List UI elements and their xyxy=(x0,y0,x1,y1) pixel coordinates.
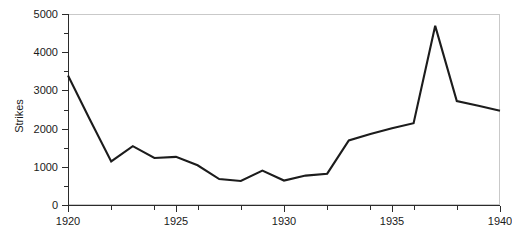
y-tick-label: 0 xyxy=(0,200,58,211)
strikes-data-line xyxy=(68,26,500,181)
y-tick-label: 5000 xyxy=(0,9,58,20)
axes-group xyxy=(68,14,500,206)
x-tick-label: 1920 xyxy=(56,216,80,227)
x-axis-ticks xyxy=(69,206,501,213)
x-tick-label: 1925 xyxy=(164,216,188,227)
y-tick-label: 1000 xyxy=(0,161,58,172)
y-tick-label: 3000 xyxy=(0,85,58,96)
x-tick-label: 1935 xyxy=(380,216,404,227)
y-axis-ticks xyxy=(62,15,69,206)
y-tick-label: 4000 xyxy=(0,47,58,58)
y-tick-label: 2000 xyxy=(0,123,58,134)
x-tick-label: 1940 xyxy=(488,216,512,227)
x-tick-label: 1930 xyxy=(272,216,296,227)
